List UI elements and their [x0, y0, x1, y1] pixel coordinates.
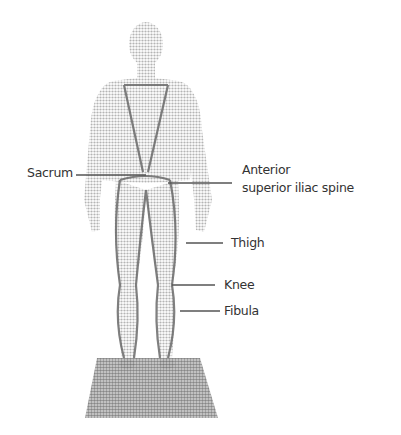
label-asis-line2: superior iliac spine: [242, 180, 354, 195]
platform: [85, 358, 218, 418]
label-thigh: Thigh: [231, 235, 264, 250]
anatomy-diagram: Sacrum Anterior superior iliac spine Thi…: [0, 0, 401, 435]
label-asis-line1: Anterior: [242, 162, 290, 177]
label-sacrum: Sacrum: [27, 165, 73, 180]
human-figure: [84, 22, 212, 369]
label-knee: Knee: [224, 277, 254, 292]
label-fibula: Fibula: [224, 303, 259, 318]
figure-illustration: [0, 0, 401, 435]
